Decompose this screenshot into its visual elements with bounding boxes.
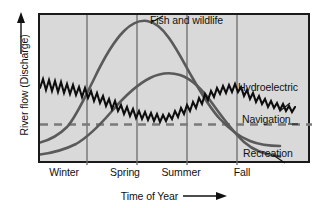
x-tick-label-winter: Winter <box>38 166 90 179</box>
x-tick-label-fall: Fall <box>216 166 268 179</box>
y-axis-group: River flow (Discharge) <box>0 10 38 165</box>
series-label-navigation: Navigation <box>242 113 291 125</box>
river-flow-chart-figure: River flow (Discharge) <box>0 0 325 208</box>
series-label-fish-and-wildlife: Fish and wildlife <box>150 14 223 26</box>
x-tick-label-spring: Spring <box>99 166 151 179</box>
x-axis-title-group: Time of Year <box>38 187 310 205</box>
x-axis-tick-labels: Winter Spring Summer Fall <box>38 166 310 182</box>
series-label-hydroelectric: Hydroelectric <box>238 81 298 93</box>
series-label-recreation: Recreation <box>243 147 293 159</box>
x-axis-title: Time of Year <box>121 190 178 203</box>
y-axis-title: River flow (Discharge) <box>18 20 30 150</box>
right-arrow-icon <box>183 191 227 201</box>
gridlines <box>87 15 237 165</box>
x-tick-label-summer: Summer <box>152 166 210 179</box>
